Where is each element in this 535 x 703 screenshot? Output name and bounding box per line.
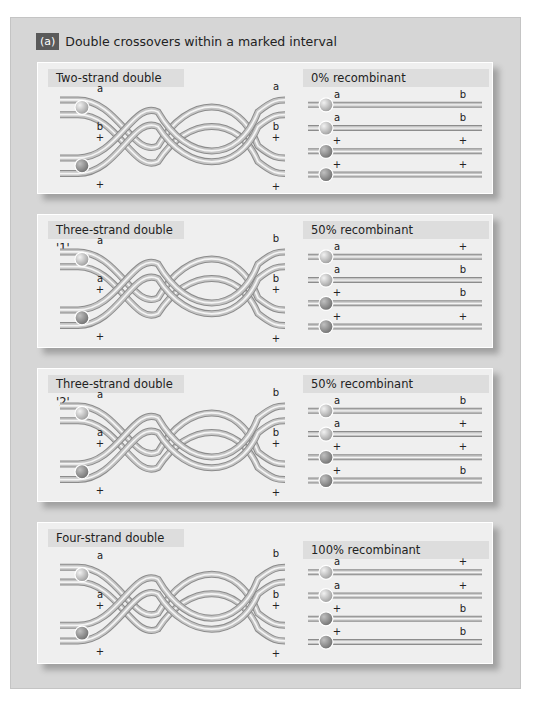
product-allele-left: + xyxy=(333,441,341,452)
product-allele-right: + xyxy=(459,135,467,146)
product-allele-left: + xyxy=(333,287,341,298)
panel-two-strand: Two-strand double 0% recombinantaab+b+++… xyxy=(37,62,493,194)
product-allele-right: b xyxy=(460,112,466,123)
product-allele-right: b xyxy=(460,287,466,298)
crossover-diagram: aba+b+++a+ab+b++ xyxy=(38,215,492,349)
crossover-diagram: aba+b+++aba++++b xyxy=(38,369,492,503)
allele-label: + xyxy=(96,646,104,657)
crossover-diagram: aab+b+++abab++++ xyxy=(38,63,492,195)
panel-three-strand-2: Three-strand double '2' 50% recombinanta… xyxy=(37,368,493,502)
panel-four-strand: Four-strand double 100% recombinantaba+b… xyxy=(37,522,493,664)
allele-label: + xyxy=(272,438,280,449)
product-allele-right: + xyxy=(459,311,467,322)
figure-title: Double crossovers within a marked interv… xyxy=(65,34,337,49)
product-allele-right: + xyxy=(459,580,467,591)
allele-label: + xyxy=(96,331,104,342)
allele-label: + xyxy=(272,181,280,192)
product-allele-left: a xyxy=(334,89,340,100)
allele-label: + xyxy=(272,132,280,143)
figure-heading: (a) Double crossovers within a marked in… xyxy=(36,33,337,50)
allele-label: + xyxy=(96,132,104,143)
product-allele-right: + xyxy=(459,159,467,170)
allele-label: + xyxy=(96,179,104,190)
allele-label: + xyxy=(272,600,280,611)
product-allele-left: a xyxy=(334,580,340,591)
product-allele-right: + xyxy=(459,418,467,429)
crossover-diagram: aba+b+++a+a++b+b xyxy=(38,523,492,665)
allele-label: a xyxy=(97,273,103,284)
product-allele-left: + xyxy=(333,311,341,322)
allele-label: a xyxy=(97,389,103,400)
product-allele-right: b xyxy=(460,395,466,406)
allele-label: + xyxy=(272,487,280,498)
allele-label: + xyxy=(272,333,280,344)
allele-label: b xyxy=(273,548,279,559)
allele-label: a xyxy=(97,83,103,94)
allele-label: + xyxy=(96,485,104,496)
product-allele-right: + xyxy=(459,441,467,452)
allele-label: + xyxy=(96,284,104,295)
allele-label: b xyxy=(273,427,279,438)
product-allele-left: + xyxy=(333,603,341,614)
allele-label: + xyxy=(96,600,104,611)
product-allele-left: a xyxy=(334,112,340,123)
allele-label: b xyxy=(273,589,279,600)
allele-label: a xyxy=(97,589,103,600)
allele-label: + xyxy=(272,648,280,659)
allele-label: a xyxy=(97,550,103,561)
product-allele-right: + xyxy=(459,556,467,567)
product-allele-left: a xyxy=(334,556,340,567)
panel-three-strand-1: Three-strand double '1' 50% recombinanta… xyxy=(37,214,493,348)
product-allele-left: a xyxy=(334,418,340,429)
allele-label: b xyxy=(273,233,279,244)
product-allele-right: b xyxy=(460,89,466,100)
allele-label: b xyxy=(273,387,279,398)
allele-label: + xyxy=(96,438,104,449)
product-allele-left: a xyxy=(334,241,340,252)
product-allele-left: + xyxy=(333,465,341,476)
product-allele-left: a xyxy=(334,264,340,275)
product-allele-left: + xyxy=(333,626,341,637)
allele-label: b xyxy=(97,121,103,132)
panel-badge: (a) xyxy=(36,33,59,50)
allele-label: b xyxy=(273,273,279,284)
product-allele-right: b xyxy=(460,264,466,275)
product-allele-right: b xyxy=(460,626,466,637)
allele-label: a xyxy=(97,427,103,438)
product-allele-right: b xyxy=(460,465,466,476)
allele-label: a xyxy=(273,81,279,92)
allele-label: a xyxy=(97,235,103,246)
product-allele-right: + xyxy=(459,241,467,252)
allele-label: b xyxy=(273,121,279,132)
product-allele-right: b xyxy=(460,603,466,614)
product-allele-left: a xyxy=(334,395,340,406)
product-allele-left: + xyxy=(333,135,341,146)
product-allele-left: + xyxy=(333,159,341,170)
allele-label: + xyxy=(272,284,280,295)
